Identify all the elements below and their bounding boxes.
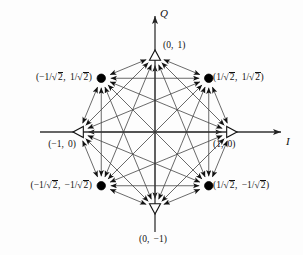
- transition-arrow: [182, 67, 200, 74]
- transition-arrow: [159, 65, 182, 121]
- axis-group: [40, 16, 281, 232]
- constellation-point-p270: [149, 204, 160, 214]
- transition-arrow: [88, 136, 144, 159]
- constellation-point-p180: [73, 126, 83, 137]
- transition-arrow: [144, 159, 200, 182]
- transition-arrow: [182, 189, 200, 196]
- transition-arrow: [155, 132, 202, 179]
- transition-arrow: [108, 85, 155, 132]
- constellation-point-p0: [227, 126, 237, 137]
- transition-arrow: [159, 143, 182, 199]
- point-label-p270: (0, −1): [139, 235, 167, 245]
- transition-arrow: [105, 121, 128, 177]
- transition-arrow: [212, 87, 219, 105]
- point-label-p180: (−1, 0): [0, 140, 76, 150]
- point-label-p225: (−1/√2, −1/√2): [0, 180, 92, 191]
- transition-arrow: [108, 132, 155, 179]
- transition-arrow: [110, 67, 128, 74]
- constellation-point-p90: [149, 50, 160, 60]
- constellation-diagram: [0, 0, 303, 255]
- transition-arrow: [83, 105, 90, 123]
- transition-arrow: [110, 82, 166, 105]
- constellation-point-p315: [205, 182, 213, 190]
- transition-arrow: [105, 87, 128, 143]
- transition-arrow: [90, 87, 97, 105]
- transition-arrow: [220, 105, 227, 123]
- transition-arrow: [212, 159, 219, 177]
- transition-arrow: [110, 159, 166, 182]
- transition-arrow: [166, 105, 222, 128]
- constellation-point-p45: [205, 74, 213, 82]
- point-label-p135: (−1/√2, 1/√2): [0, 72, 92, 83]
- constellation-point-p135: [97, 74, 105, 82]
- transition-arrow: [128, 143, 151, 199]
- point-label-p315: (1/√2, −1/√2): [213, 180, 269, 191]
- transition-arrow: [164, 60, 182, 67]
- point-label-p0: (1, 0): [213, 140, 235, 150]
- transition-arrow: [128, 197, 146, 204]
- transition-arrow: [144, 82, 200, 105]
- transition-arrow: [88, 105, 144, 128]
- point-label-p45: (1/√2, 1/√2): [213, 72, 264, 83]
- transition-arrow: [182, 121, 205, 177]
- transition-arrow: [83, 141, 90, 159]
- transition-arrow: [128, 65, 151, 121]
- axis-label-i: I: [286, 136, 290, 147]
- axis-label-q: Q: [160, 8, 168, 19]
- transition-arrow: [128, 60, 146, 67]
- transition-arrow: [182, 87, 205, 143]
- constellation-point-p225: [97, 182, 105, 190]
- transition-arrow: [110, 189, 128, 196]
- transition-arrow: [155, 85, 202, 132]
- transition-arrow: [164, 197, 182, 204]
- point-label-p90: (0, 1): [163, 41, 185, 51]
- transition-arrow: [90, 159, 97, 177]
